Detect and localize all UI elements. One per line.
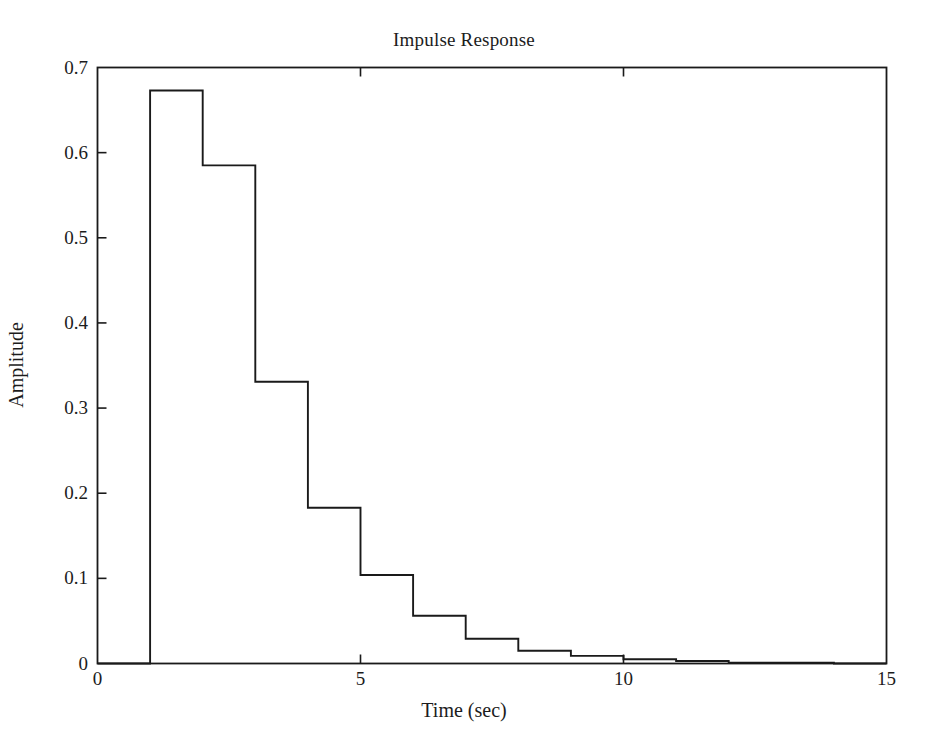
y-tick-label: 0.5 xyxy=(30,227,88,249)
y-tick-label: 0.1 xyxy=(30,567,88,589)
axes-border xyxy=(98,68,887,664)
y-tick-label: 0.6 xyxy=(30,142,88,164)
x-tick-label: 0 xyxy=(93,668,103,690)
plot-canvas xyxy=(0,0,928,754)
y-tick-label: 0.4 xyxy=(30,312,88,334)
impulse-response-figure: Impulse Response Amplitude Time (sec) 00… xyxy=(0,0,928,754)
impulse-response-line xyxy=(98,90,887,663)
x-tick-label: 5 xyxy=(356,668,366,690)
x-tick-label: 10 xyxy=(614,668,633,690)
axes-frame xyxy=(98,68,887,664)
y-axis-ticks xyxy=(98,153,107,579)
y-tick-label: 0.2 xyxy=(30,482,88,504)
x-tick-label: 15 xyxy=(877,668,896,690)
y-tick-label: 0.3 xyxy=(30,397,88,419)
y-tick-label: 0.7 xyxy=(30,57,88,79)
y-tick-label: 0 xyxy=(30,653,88,675)
